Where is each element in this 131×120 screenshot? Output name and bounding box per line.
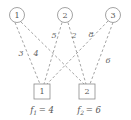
supply-f2-subscript: 2 [79, 109, 84, 116]
node-circle-1-label: 1 [14, 11, 19, 20]
edge-weight-label-5: 5 [51, 31, 56, 40]
edge-weight-label-8: 8 [88, 30, 93, 39]
source-node-group: 1 2 3 [10, 8, 121, 23]
node-square-1[interactable]: 1 [34, 84, 50, 99]
node-circle-1[interactable]: 1 [10, 8, 25, 23]
edge-weight-label-3: 3 [18, 49, 23, 58]
node-square-2-label: 2 [84, 87, 89, 96]
supply-f1-equals: = 4 [39, 105, 54, 115]
node-square-1-label: 1 [39, 87, 44, 96]
supply-label-f2: f2= 6 [76, 105, 101, 116]
node-circle-2-label: 2 [62, 11, 67, 20]
supply-f1-subscript: 1 [33, 109, 37, 116]
supply-label-f1: f1= 4 [29, 105, 54, 116]
supply-label-group: f1= 4 f2= 6 [29, 105, 101, 116]
edge-weight-label-6: 6 [105, 56, 110, 65]
sink-node-group: 1 2 [34, 84, 95, 99]
supply-f2-equals: = 6 [86, 105, 102, 115]
edge-weight-label-4: 4 [32, 49, 38, 58]
node-square-2[interactable]: 2 [79, 84, 95, 99]
node-circle-3-label: 3 [110, 11, 115, 20]
node-circle-3[interactable]: 3 [106, 8, 121, 23]
node-circle-2[interactable]: 2 [58, 8, 73, 23]
edge-group [15, 21, 113, 84]
edge-weight-label-2: 2 [70, 31, 76, 40]
graph-canvas: 1 2 3 1 2 3 4 5 [0, 0, 131, 120]
bipartite-graph-diagram: 1 2 3 1 2 3 4 5 [0, 0, 131, 120]
edge-weight-label-group: 3 4 5 2 8 6 [18, 30, 110, 65]
